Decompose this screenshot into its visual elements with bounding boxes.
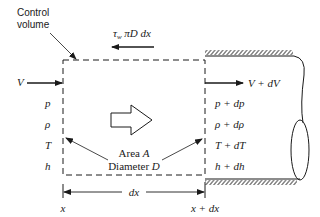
diameter-pointer-right — [162, 139, 202, 160]
inlet-velocity-label: V — [17, 76, 25, 88]
outlet-pressure: p + dp — [214, 97, 245, 109]
shear-force-label: τw πD dx — [113, 27, 151, 41]
x-end-label: x + dx — [190, 202, 219, 214]
x-start-label: x — [60, 202, 66, 214]
outlet-density: ρ + dρ — [214, 118, 244, 130]
control-volume-label-line2: volume — [17, 19, 50, 30]
inlet-pressure: p — [44, 97, 51, 109]
lower-wall-hatch — [205, 180, 297, 185]
control-volume-pointer-arrow — [50, 33, 76, 59]
diameter-pointer-left — [66, 138, 108, 160]
outlet-enthalpy: h + dh — [215, 160, 245, 172]
diameter-label: Diameter D — [108, 160, 160, 172]
pipe-cross-section-ellipse — [291, 120, 309, 180]
control-volume-diagram: Control volume τw πD dx V V + dV p ρ T h… — [0, 0, 320, 217]
area-label: Area A — [119, 147, 150, 159]
inlet-density: ρ — [44, 118, 50, 130]
outlet-velocity-label: V + dV — [248, 77, 281, 89]
upper-wall-hatch — [205, 50, 293, 55]
flow-direction-arrow-icon — [111, 105, 152, 135]
pipe-cut-edge — [294, 56, 304, 123]
length-label: dx — [129, 186, 140, 198]
outlet-temperature: T + dT — [215, 139, 246, 151]
control-volume-label-line1: Control — [17, 7, 49, 18]
inlet-temperature: T — [45, 139, 52, 151]
inlet-enthalpy: h — [45, 160, 51, 172]
